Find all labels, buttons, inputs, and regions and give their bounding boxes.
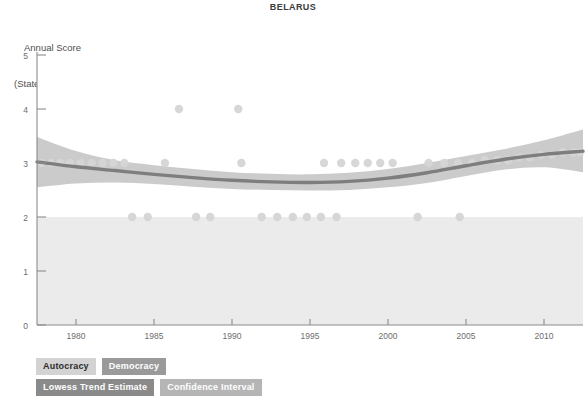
x-tick-1985: 1985 (145, 331, 164, 341)
chart-legend: Autocracy Democracy Lowess Trend Estimat… (36, 358, 262, 400)
chart-container: BELARUS Annual Score (State Department) … (0, 0, 586, 413)
x-tick-2010: 2010 (535, 331, 554, 341)
y-tick-1: 1 (23, 267, 28, 277)
y-tick-3: 3 (23, 159, 28, 169)
y-tick-0: 0 (23, 321, 28, 331)
x-tick-1995: 1995 (301, 331, 320, 341)
y-tick-2: 2 (23, 213, 28, 223)
x-tick-1990: 1990 (223, 331, 242, 341)
y-tick-5: 5 (23, 51, 28, 61)
x-tick-2000: 2000 (379, 331, 398, 341)
legend-chip-confidence-interval[interactable]: Confidence Interval (160, 379, 261, 396)
legend-row-lines: Lowess Trend Estimate Confidence Interva… (36, 379, 262, 396)
legend-row-regions: Autocracy Democracy (36, 358, 262, 375)
y-tick-4: 4 (23, 105, 28, 115)
legend-chip-democracy[interactable]: Democracy (102, 358, 166, 375)
x-tick-2005: 2005 (457, 331, 476, 341)
legend-chip-autocracy[interactable]: Autocracy (36, 358, 96, 375)
plot-area: 0123451980198519901995200020052010 (0, 0, 586, 413)
x-tick-1980: 1980 (67, 331, 86, 341)
legend-chip-lowess-trend[interactable]: Lowess Trend Estimate (36, 379, 154, 396)
